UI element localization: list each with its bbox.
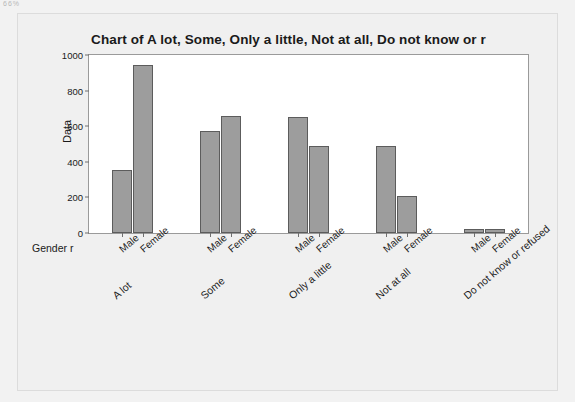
- bar-a-lot-female: [133, 65, 153, 233]
- bar-not-at-all-male: [376, 146, 396, 233]
- x-label-male: Male: [469, 232, 493, 254]
- x-tick-mark: [122, 233, 123, 237]
- x-tick-mark: [231, 233, 232, 237]
- x-tick-mark: [386, 233, 387, 237]
- x-tick-mark: [495, 233, 496, 237]
- y-tick-mark: [85, 161, 89, 162]
- chart-card: Chart of A lot, Some, Only a little, Not…: [17, 13, 558, 391]
- x-axis-title: Gender r: [32, 242, 73, 254]
- x-category-label-a-lot: A lot: [110, 279, 133, 301]
- x-label-male: Male: [205, 232, 229, 254]
- x-tick-mark: [298, 233, 299, 237]
- bar-some-female: [221, 116, 241, 233]
- y-tick-mark: [85, 90, 89, 91]
- bar-not-at-all-female: [397, 196, 417, 233]
- bar-a-lot-male: [112, 170, 132, 233]
- x-category-label-not-at-all: Not at all: [373, 265, 412, 301]
- plot-area: Data 02004006008001000: [88, 54, 529, 234]
- x-category-label-only-a-little: Only a little: [286, 259, 333, 302]
- scan-artifact-text: 66%: [3, 0, 20, 7]
- x-tick-mark: [210, 233, 211, 237]
- bar-some-male: [200, 131, 220, 233]
- x-category-label-some: Some: [198, 274, 227, 301]
- y-tick-mark: [85, 233, 89, 234]
- y-tick-mark: [85, 55, 89, 56]
- bar-only-a-little-male: [288, 117, 308, 233]
- x-label-male: Male: [293, 232, 317, 254]
- x-tick-mark: [407, 233, 408, 237]
- y-tick-mark: [85, 126, 89, 127]
- x-label-male: Male: [117, 232, 141, 254]
- x-tick-mark: [474, 233, 475, 237]
- bar-only-a-little-female: [309, 146, 329, 233]
- x-tick-mark: [143, 233, 144, 237]
- y-tick-mark: [85, 197, 89, 198]
- x-label-male: Male: [381, 232, 405, 254]
- x-tick-mark: [319, 233, 320, 237]
- chart-title: Chart of A lot, Some, Only a little, Not…: [18, 32, 559, 47]
